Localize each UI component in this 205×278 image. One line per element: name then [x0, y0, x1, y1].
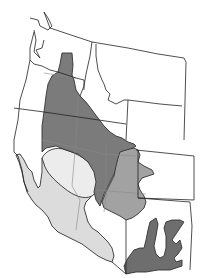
map-figure [0, 0, 205, 278]
southeast-new-mexico-region [124, 218, 184, 274]
western-us-map [0, 0, 205, 278]
